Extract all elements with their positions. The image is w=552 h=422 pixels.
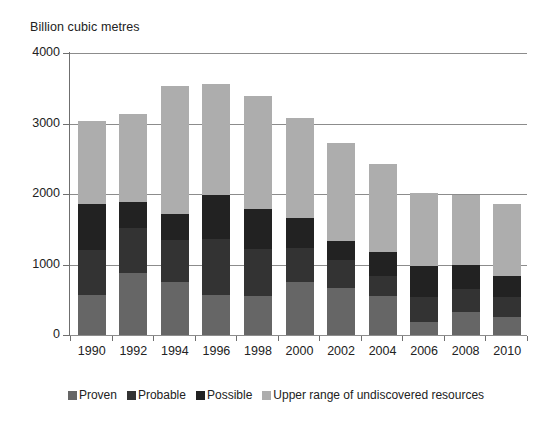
bar-segment-possible[interactable]: [244, 209, 272, 249]
y-axis-tick-label: 2000: [0, 186, 60, 200]
bar-stack[interactable]: [369, 53, 397, 335]
bar-segment-upper[interactable]: [493, 204, 521, 276]
y-axis-tick: [63, 53, 70, 54]
y-axis-tick: [63, 335, 70, 336]
x-axis-tick: [236, 336, 237, 341]
bar-stack[interactable]: [244, 53, 272, 335]
x-axis-tick: [444, 336, 445, 341]
bar-stack[interactable]: [493, 53, 521, 335]
legend-swatch-icon: [196, 391, 205, 400]
bar-segment-upper[interactable]: [410, 193, 438, 266]
bar-stack[interactable]: [410, 53, 438, 335]
bar-segment-proven[interactable]: [202, 295, 230, 335]
plot-area: [70, 53, 527, 335]
bar-segment-upper[interactable]: [452, 195, 480, 265]
bar-segment-upper[interactable]: [119, 114, 147, 202]
x-axis-tick: [70, 336, 71, 341]
bar-segment-possible[interactable]: [410, 266, 438, 297]
legend-label: Probable: [138, 388, 186, 402]
bar-segment-probable[interactable]: [327, 260, 355, 288]
legend-item[interactable]: Possible: [196, 388, 252, 402]
bar-segment-probable[interactable]: [244, 249, 272, 296]
chart-legend: ProvenProbablePossibleUpper range of und…: [0, 388, 552, 402]
x-axis-tick: [153, 336, 154, 341]
legend-label: Possible: [207, 388, 252, 402]
y-axis-tick-label: 0: [0, 327, 60, 341]
x-axis-tick: [278, 336, 279, 341]
bar-segment-possible[interactable]: [452, 265, 480, 289]
bar-segment-proven[interactable]: [410, 322, 438, 335]
legend-item[interactable]: Probable: [127, 388, 186, 402]
bar-stack[interactable]: [119, 53, 147, 335]
bar-segment-proven[interactable]: [244, 296, 272, 335]
x-axis-tick: [195, 336, 196, 341]
bar-segment-upper[interactable]: [202, 84, 230, 195]
y-axis-labels: 01000200030004000: [0, 0, 60, 422]
bar-segment-probable[interactable]: [369, 276, 397, 296]
bar-stack[interactable]: [161, 53, 189, 335]
bar-segment-proven[interactable]: [119, 273, 147, 335]
legend-swatch-icon: [68, 391, 77, 400]
bar-segment-probable[interactable]: [202, 239, 230, 295]
bar-segment-upper[interactable]: [286, 118, 314, 218]
x-axis-tick-label: 2010: [477, 344, 537, 358]
y-axis-tick: [63, 194, 70, 195]
bar-segment-possible[interactable]: [202, 195, 230, 239]
x-axis-tick: [402, 336, 403, 341]
bar-stack[interactable]: [452, 53, 480, 335]
bar-segment-probable[interactable]: [452, 289, 480, 312]
y-axis-tick-label: 1000: [0, 257, 60, 271]
legend-item[interactable]: Upper range of undiscovered resources: [262, 388, 484, 402]
bar-segment-possible[interactable]: [119, 202, 147, 228]
bar-segment-upper[interactable]: [327, 143, 355, 240]
gridline: [70, 335, 527, 336]
bar-segment-proven[interactable]: [493, 317, 521, 335]
bar-segment-upper[interactable]: [369, 164, 397, 252]
x-axis-tick: [361, 336, 362, 341]
bar-segment-proven[interactable]: [78, 295, 106, 335]
chart-figure: Billion cubic metres 01000200030004000 P…: [0, 0, 552, 422]
y-axis-tick: [63, 124, 70, 125]
x-axis-tick: [527, 336, 528, 341]
bar-segment-proven[interactable]: [286, 282, 314, 335]
bar-segment-probable[interactable]: [78, 250, 106, 295]
x-axis-tick: [319, 336, 320, 341]
bar-segment-upper[interactable]: [244, 96, 272, 209]
bar-stack[interactable]: [202, 53, 230, 335]
x-axis-tick: [112, 336, 113, 341]
bar-segment-probable[interactable]: [119, 228, 147, 273]
bar-segment-possible[interactable]: [161, 214, 189, 240]
y-axis-tick-label: 4000: [0, 45, 60, 59]
bar-segment-proven[interactable]: [452, 312, 480, 335]
bar-segment-probable[interactable]: [286, 248, 314, 283]
legend-label: Proven: [79, 388, 117, 402]
bar-segment-proven[interactable]: [369, 296, 397, 335]
bar-segment-possible[interactable]: [286, 218, 314, 248]
y-axis-tick-label: 3000: [0, 116, 60, 130]
bar-segment-proven[interactable]: [161, 282, 189, 335]
bar-segment-possible[interactable]: [493, 276, 521, 297]
bar-segment-proven[interactable]: [327, 288, 355, 335]
bar-stack[interactable]: [327, 53, 355, 335]
bar-segment-probable[interactable]: [493, 297, 521, 317]
bar-stack[interactable]: [78, 53, 106, 335]
bar-segment-probable[interactable]: [161, 240, 189, 282]
bar-segment-upper[interactable]: [161, 86, 189, 214]
x-axis-tick: [485, 336, 486, 341]
bar-segment-probable[interactable]: [410, 297, 438, 322]
legend-label: Upper range of undiscovered resources: [273, 388, 484, 402]
legend-item[interactable]: Proven: [68, 388, 117, 402]
bar-stack[interactable]: [286, 53, 314, 335]
bar-segment-possible[interactable]: [78, 204, 106, 250]
bar-segment-possible[interactable]: [369, 252, 397, 276]
legend-swatch-icon: [262, 391, 271, 400]
bar-segment-possible[interactable]: [327, 241, 355, 260]
legend-swatch-icon: [127, 391, 136, 400]
bar-segment-upper[interactable]: [78, 121, 106, 204]
y-axis-tick: [63, 265, 70, 266]
